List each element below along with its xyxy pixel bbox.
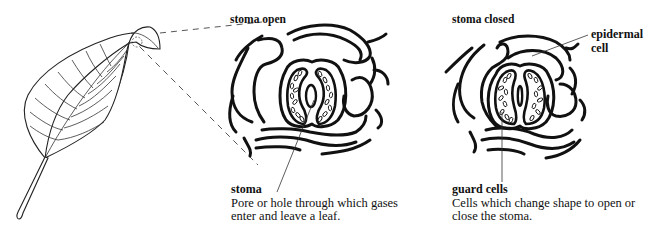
guard-cells-term: guard cells <box>452 183 508 195</box>
epidermal-cell-label: epidermal cell <box>591 27 651 55</box>
leaf-stalk <box>17 157 48 219</box>
stoma-pore-closed <box>518 86 522 106</box>
stomata-diagram: stoma open stoma closed epidermal cell s… <box>0 0 658 239</box>
stoma-closed-illustration <box>446 35 588 182</box>
stoma-open-illustration <box>230 25 388 192</box>
stoma-open-title: stoma open <box>230 14 286 26</box>
guard-cells-description: Cells which change shape to open or clos… <box>452 197 642 223</box>
stoma-term: stoma <box>231 183 262 195</box>
leaf-illustration <box>17 27 160 219</box>
stoma-closed-title: stoma closed <box>452 14 514 26</box>
stoma-description: Pore or hole through which gases enter a… <box>231 197 421 223</box>
stoma-pore-open <box>306 85 316 107</box>
